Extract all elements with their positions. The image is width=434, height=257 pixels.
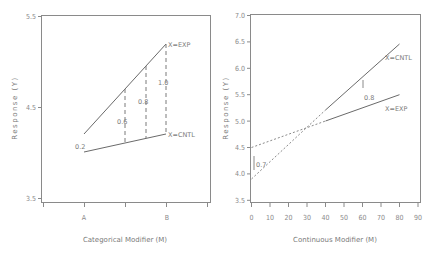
right-xtick: 30 (303, 214, 311, 222)
right-xtick: 80 (395, 214, 403, 222)
left-ytick: 5.5 (26, 13, 36, 21)
left-xtick-b: B (165, 214, 169, 222)
right-xtick: 10 (266, 214, 274, 222)
right-y-axis-label: Response (Y) (222, 76, 230, 140)
left-ann-06: 0.6 (117, 118, 127, 126)
left-ann-02: 0.2 (75, 143, 85, 151)
right-ann-08: 0.8 (364, 94, 374, 102)
right-ann-07: 0.7 (256, 161, 266, 169)
right-ytick: 4.0 (235, 170, 245, 178)
right-cntl-label: X=CNTL (385, 54, 412, 62)
left-x-axis-label: Categorical Modifier (M) (83, 236, 167, 244)
right-xtick: 90 (414, 214, 422, 222)
right-ytick: 5.5 (235, 91, 245, 99)
right-xtick: 0 (249, 214, 253, 222)
right-x-axis-label: Continuous Modifier (M) (293, 236, 377, 244)
right-ytick: 6.5 (235, 38, 245, 46)
right-ytick: 4.5 (235, 144, 245, 152)
left-ann-10: 1.0 (158, 79, 168, 87)
left-cntl-label: X=CNTL (168, 131, 195, 139)
left-y-axis-label: Response (Y) (11, 76, 19, 140)
right-ytick: 7.0 (235, 12, 245, 20)
left-exp-label: X=EXP (168, 41, 190, 49)
right-exp-line-extrapolated (252, 121, 326, 148)
right-xtick: 20 (284, 214, 292, 222)
right-xtick: 50 (340, 214, 348, 222)
right-xtick: 40 (321, 214, 329, 222)
right-chart: 7.0 6.5 6.0 5.5 5.0 4.5 4.0 3.5 0 10 20 … (222, 12, 422, 244)
figure: 5.5 4.5 3.5 A B X=EXP X=CNTL 0.2 0.6 0.8… (0, 0, 434, 257)
left-ytick: 3.5 (26, 195, 36, 203)
left-xtick-a: A (82, 214, 87, 222)
left-ann-08: 0.8 (138, 98, 148, 106)
left-chart: 5.5 4.5 3.5 A B X=EXP X=CNTL 0.2 0.6 0.8… (11, 13, 211, 244)
left-cntl-line (84, 134, 166, 152)
right-ytick: 6.0 (235, 65, 245, 73)
right-exp-label: X=EXP (385, 105, 407, 113)
right-ytick: 3.5 (235, 197, 245, 205)
right-xtick: 70 (377, 214, 385, 222)
left-ytick: 4.5 (26, 104, 36, 112)
right-ytick: 5.0 (235, 118, 245, 126)
right-xtick: 60 (358, 214, 366, 222)
